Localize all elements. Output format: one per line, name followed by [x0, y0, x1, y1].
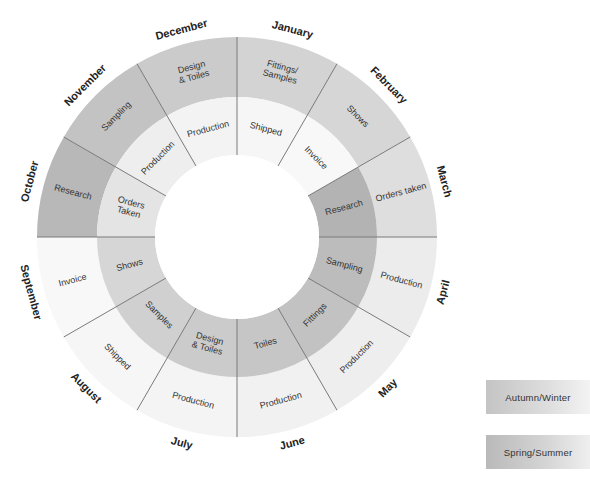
month-label-july: July — [170, 434, 195, 452]
month-label-april: April — [434, 278, 452, 305]
legend-autumn-winter-label: Autumn/Winter — [505, 392, 570, 403]
month-label-march: March — [435, 164, 455, 199]
legend-autumn-winter: Autumn/Winter — [486, 380, 590, 414]
month-label-june: June — [278, 434, 306, 452]
month-label-may: May — [376, 375, 400, 399]
legend-spring-summer-label: Spring/Summer — [504, 447, 573, 458]
month-label-january: January — [271, 18, 316, 41]
center-hole — [155, 155, 319, 319]
month-label-december: December — [154, 16, 209, 42]
legend-spring-summer: Spring/Summer — [486, 435, 590, 469]
month-label-october: October — [18, 159, 41, 204]
